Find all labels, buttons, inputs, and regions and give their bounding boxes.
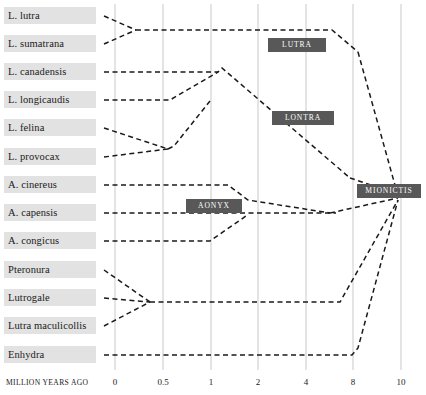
phylogenetic-tree-figure: L. lutraL. sumatranaL. canadensisL. long…	[0, 0, 426, 395]
br-lower-stem	[150, 200, 398, 302]
br-l-sumatrana	[104, 30, 136, 44]
br-l-lutra	[104, 16, 136, 30]
axis-tick-label: 0	[113, 377, 118, 387]
branches-group	[104, 16, 398, 355]
taxon-label: L. longicaudis	[4, 91, 96, 108]
br-l-felina	[104, 128, 168, 149]
taxon-label: Lutrogale	[4, 289, 96, 306]
taxon-label: L. canadensis	[4, 63, 96, 80]
br-l-longicaudis	[104, 72, 218, 100]
axis-tick-label: 4	[304, 377, 309, 387]
taxon-label: A. cinereus	[4, 176, 96, 193]
br-enhydra	[104, 200, 398, 355]
clade-badge-aonyx: AONYX	[186, 199, 242, 213]
br-a-congicus	[104, 216, 246, 241]
br-maculicollis	[104, 302, 150, 326]
taxon-label: L. provocax	[4, 148, 96, 165]
axis-tick-label: 10	[397, 377, 406, 387]
br-lutra-to-root	[358, 52, 398, 196]
br-pteronura	[104, 270, 150, 302]
taxon-label: A. capensis	[4, 204, 96, 221]
taxon-label: L. sumatrana	[4, 35, 96, 52]
axis-caption: MILLION YEARS AGO	[6, 378, 88, 387]
taxon-label: L. felina	[4, 119, 96, 136]
taxon-label: Enhydra	[4, 346, 96, 363]
clade-badge-lutra: LUTRA	[268, 38, 326, 52]
br-l-provocax	[104, 149, 168, 157]
taxon-label: Pteronura	[4, 261, 96, 278]
taxon-label: A. congicus	[4, 232, 96, 249]
br-lutrogale	[104, 298, 150, 302]
clade-badge-lontra: LONTRA	[272, 111, 334, 125]
taxon-label: Lutra maculicollis	[4, 317, 96, 334]
taxon-label: L. lutra	[4, 7, 96, 24]
clade-badge-mionictis: MIONICTIS	[357, 184, 421, 198]
axis-tick-label: 1	[209, 377, 214, 387]
br-lontra-stem	[168, 101, 210, 149]
br-aonyx-join	[330, 198, 398, 213]
axis-tick-label: 2	[256, 377, 261, 387]
axis-tick-label: 0.5	[157, 377, 168, 387]
axis-tick-label: 8	[351, 377, 356, 387]
